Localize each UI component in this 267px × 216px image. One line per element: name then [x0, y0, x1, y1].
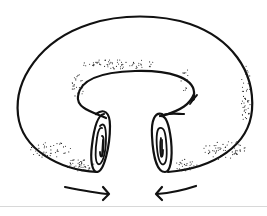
right-arrow-pointing-left-icon: [156, 186, 196, 200]
right-cut-end-spiral: [152, 114, 184, 173]
inner-hole-outline: [78, 71, 194, 118]
outer-torus-outline: [18, 17, 253, 173]
stipple-shading: [30, 59, 250, 171]
left-cut-end-spiral: [91, 111, 110, 172]
bottom-divider: [0, 206, 267, 207]
left-arrow-pointing-right-icon: [65, 187, 109, 200]
torus-cut-diagram: [0, 0, 267, 216]
